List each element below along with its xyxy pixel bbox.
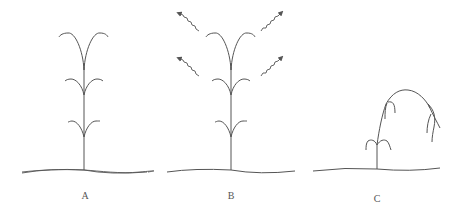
leaf-c-droop-right-1 [428, 104, 435, 142]
arrow-lower-right-icon [261, 57, 282, 76]
leaf-b-low-left [215, 121, 231, 137]
diagram-canvas [0, 0, 457, 216]
arrow-upper-right-icon [261, 12, 282, 31]
panel-label-b: B [228, 190, 235, 201]
leaf-a-low-left [68, 121, 84, 137]
leaf-a-top-right [84, 33, 108, 70]
leaf-a-mid-left [65, 79, 84, 95]
leaf-c-droop-right-3 [427, 114, 431, 133]
stem-c [377, 90, 430, 169]
leaf-b-top-right [231, 33, 255, 70]
arrow-lower-left-icon [178, 58, 199, 76]
leaf-a-top-left [59, 33, 84, 70]
leaf-b-low-right [231, 121, 247, 137]
leaf-b-mid-left [212, 79, 231, 95]
leaf-a-mid-right [84, 79, 103, 95]
leaf-b-top-left [206, 33, 231, 70]
leaf-b-mid-right [231, 79, 250, 95]
leaf-c-droop-left-2 [388, 102, 395, 113]
panel-label-a: A [81, 190, 88, 201]
leaf-c-low-right [377, 140, 391, 150]
plant-a [22, 33, 154, 173]
leaf-a-low-right [84, 121, 100, 137]
panel-label-c: C [374, 193, 381, 204]
plant-b [167, 12, 295, 173]
arrow-upper-left-icon [178, 13, 199, 31]
leaf-c-low-left [366, 140, 377, 150]
plant-c [313, 90, 440, 171]
